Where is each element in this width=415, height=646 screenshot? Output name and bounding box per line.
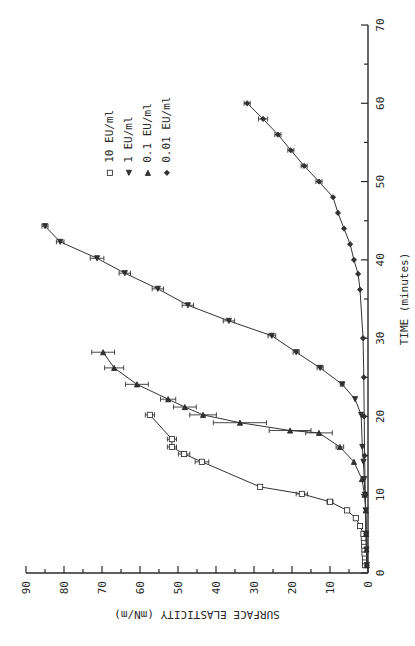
x-tick-label: 60 bbox=[374, 97, 387, 110]
legend-label: 0.01 EU/ml bbox=[160, 97, 173, 163]
triangle-up-marker bbox=[352, 397, 357, 402]
legend-item: 0.01 EU/ml bbox=[160, 97, 173, 176]
series-line bbox=[45, 226, 367, 565]
y-axis-label: SURFACE ELASTICITY (mN/m) bbox=[114, 608, 280, 621]
square-marker bbox=[357, 523, 362, 528]
square-marker bbox=[169, 437, 174, 442]
y-tick-label: 70 bbox=[96, 581, 109, 594]
x-tick-label: 10 bbox=[374, 488, 387, 501]
legend-label: 0.1 EU/ml bbox=[141, 103, 154, 163]
square-marker bbox=[181, 451, 186, 456]
x-tick-label: 0 bbox=[374, 570, 387, 577]
diamond-marker bbox=[361, 375, 366, 380]
y-tick-label: 60 bbox=[134, 581, 147, 594]
series-line bbox=[150, 415, 365, 565]
triangle-up-marker bbox=[126, 170, 131, 175]
square-marker bbox=[257, 484, 262, 489]
square-marker bbox=[107, 170, 112, 175]
series-10-eu-ml bbox=[145, 412, 367, 568]
y-tick-label: 90 bbox=[20, 581, 33, 594]
diamond-marker bbox=[341, 226, 346, 231]
chart: 010203040506070 0102030405060708090 TIME… bbox=[0, 0, 415, 646]
diamond-marker bbox=[335, 210, 340, 215]
triangle-up-marker bbox=[361, 459, 366, 464]
diamond-marker bbox=[360, 336, 365, 341]
y-ticks: 0102030405060708090 bbox=[20, 566, 375, 594]
y-tick-label: 40 bbox=[210, 581, 223, 594]
legend-label: 10 EU/ml bbox=[103, 110, 116, 163]
series-1-eu-ml bbox=[42, 224, 370, 568]
legend: 10 EU/ml1 EU/ml0.1 EU/ml0.01 EU/ml bbox=[103, 97, 173, 176]
axes: 010203040506070 0102030405060708090 TIME… bbox=[20, 18, 411, 621]
x-axis-label: TIME (minutes) bbox=[398, 253, 411, 346]
x-tick-label: 70 bbox=[374, 18, 387, 31]
x-tick-label: 30 bbox=[374, 332, 387, 345]
diamond-marker bbox=[351, 257, 356, 262]
square-marker bbox=[345, 508, 350, 513]
series-line bbox=[247, 103, 367, 565]
diamond-marker bbox=[164, 170, 169, 175]
x-tick-label: 50 bbox=[374, 175, 387, 188]
series-0-01-eu-ml bbox=[244, 101, 369, 568]
square-marker bbox=[199, 459, 204, 464]
series-0-1-eu-ml bbox=[92, 350, 370, 568]
diamond-marker bbox=[348, 242, 353, 247]
y-tick-label: 10 bbox=[324, 581, 337, 594]
y-tick-label: 0 bbox=[362, 581, 375, 588]
square-marker bbox=[147, 412, 152, 417]
rotated-plot: 010203040506070 0102030405060708090 TIME… bbox=[20, 18, 411, 621]
legend-label: 1 EU/ml bbox=[122, 116, 135, 162]
y-tick-label: 30 bbox=[248, 581, 261, 594]
x-tick-label: 40 bbox=[374, 253, 387, 266]
triangle-down-marker bbox=[145, 170, 150, 175]
x-tick-label: 20 bbox=[374, 410, 387, 423]
square-marker bbox=[327, 499, 332, 504]
y-tick-label: 20 bbox=[286, 581, 299, 594]
legend-item: 1 EU/ml bbox=[122, 116, 135, 175]
diamond-marker bbox=[357, 287, 362, 292]
square-marker bbox=[353, 516, 358, 521]
plot-series bbox=[42, 101, 370, 568]
legend-item: 10 EU/ml bbox=[103, 110, 116, 176]
y-tick-label: 80 bbox=[58, 581, 71, 594]
y-tick-label: 50 bbox=[172, 581, 185, 594]
diamond-marker bbox=[356, 271, 361, 276]
square-marker bbox=[299, 491, 304, 496]
square-marker bbox=[169, 444, 174, 449]
legend-item: 0.1 EU/ml bbox=[141, 103, 154, 175]
